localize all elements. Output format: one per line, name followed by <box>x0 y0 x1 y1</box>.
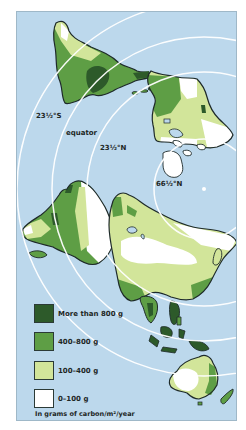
legend-swatch-medium-green <box>34 332 54 351</box>
legend-swatch-white <box>34 389 54 408</box>
legend-label: 100–400 g <box>58 367 98 375</box>
island-new-zealand <box>221 389 233 404</box>
legend-label: 400–800 g <box>58 338 98 346</box>
map-frame <box>16 11 237 421</box>
label-66n: 66½°N <box>156 181 182 188</box>
legend-item-low: 0–100 g <box>34 389 88 408</box>
legend-swatch-dark-green <box>34 304 54 323</box>
legend-item-high: More than 800 g <box>34 304 123 323</box>
productivity-map <box>16 11 237 421</box>
legend-item-medium-low: 100–400 g <box>34 361 98 380</box>
legend-label: More than 800 g <box>58 310 123 318</box>
island-madagascar <box>29 251 47 258</box>
legend-swatch-light-green <box>34 361 54 380</box>
legend-item-medium-high: 400–800 g <box>34 332 98 351</box>
label-23s: 23½°S <box>36 113 62 120</box>
arctic-islands <box>163 140 205 177</box>
north-pole-marker <box>202 187 206 191</box>
legend-units: In grams of carbon/m²/year <box>35 410 135 418</box>
continent-eurasia <box>109 193 237 301</box>
continent-australia <box>169 355 217 405</box>
label-equator: equator <box>66 130 97 137</box>
indonesia-islands <box>149 317 209 353</box>
south-asia <box>140 296 179 324</box>
legend-label: 0–100 g <box>58 395 88 403</box>
continent-north-america <box>147 71 233 151</box>
label-23n: 23½°N <box>100 145 126 152</box>
